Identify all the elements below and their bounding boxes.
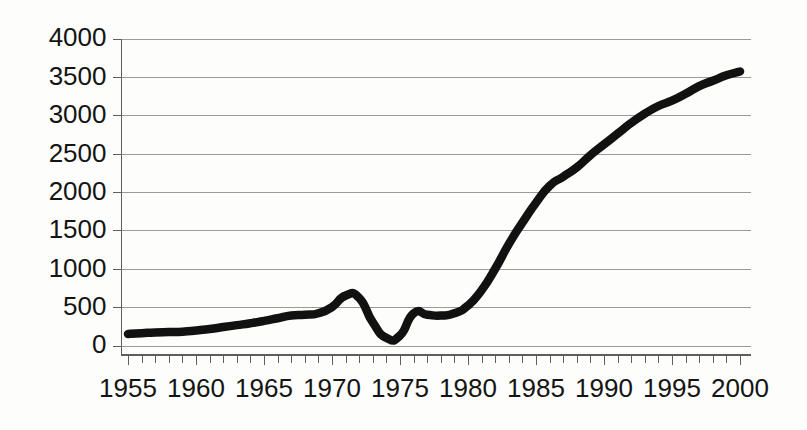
line-chart: 05001000150020002500300035004000 1955196…: [0, 0, 807, 430]
x-axis-tick-label: 1985: [507, 373, 565, 403]
y-axis-tick-label: 2000: [49, 176, 107, 206]
y-axis-tick-label: 0: [92, 329, 106, 359]
x-axis-tick-label: 2000: [711, 373, 769, 403]
y-axis-tick-label: 3000: [49, 99, 107, 129]
x-axis-tick-label: 1980: [439, 373, 497, 403]
y-axis-tick-label: 2500: [49, 138, 107, 168]
y-axis-tick-label: 1500: [49, 214, 107, 244]
x-axis-tick-label: 1955: [99, 373, 157, 403]
y-axis-tick-label: 4000: [49, 22, 107, 52]
y-axis-tick-label: 1000: [49, 253, 107, 283]
x-axis-tick-label: 1975: [371, 373, 429, 403]
y-axis-tick-label: 500: [63, 291, 106, 321]
x-axis-tick-label: 1960: [167, 373, 225, 403]
x-axis-tick-label: 1965: [235, 373, 293, 403]
x-axis-tick-label: 1995: [643, 373, 701, 403]
x-axis-tick-label: 1990: [575, 373, 633, 403]
y-axis-tick-label: 3500: [49, 61, 107, 91]
chart-container: 05001000150020002500300035004000 1955196…: [0, 0, 807, 430]
x-axis-tick-label: 1970: [303, 373, 361, 403]
